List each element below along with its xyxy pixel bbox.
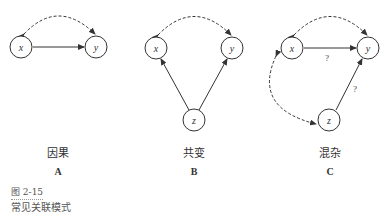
question-mark-xy: ? [325, 53, 329, 63]
node-x: x [145, 37, 167, 59]
figure-caption: 常见关联模式 [11, 199, 71, 214]
panel-c: ? ? x y z [269, 17, 379, 132]
dashed-bidirectional-arc [158, 17, 231, 36]
question-mark-zy: ? [353, 84, 357, 94]
svg-text:y: y [229, 43, 235, 54]
dashed-bidirectional-arc-xy [294, 17, 367, 36]
panel-a-letter: A [54, 166, 61, 177]
svg-text:y: y [93, 42, 99, 53]
svg-text:z: z [191, 115, 196, 126]
node-x: x [281, 37, 303, 59]
node-y: y [221, 37, 243, 59]
dashed-bidirectional-arc [24, 16, 95, 34]
arrow-z-to-x [161, 59, 189, 110]
panel-c-letter: C [326, 166, 333, 177]
figure-number: 图 2-15 [11, 185, 43, 200]
svg-text:z: z [326, 115, 331, 126]
svg-text:y: y [365, 43, 371, 54]
node-y: y [357, 37, 379, 59]
panel-a-title: 因果 [47, 144, 69, 160]
node-y: y [85, 36, 107, 58]
association-patterns-diagram: x y x y z ? ? x [0, 0, 386, 220]
panel-a: x y [10, 16, 107, 58]
panel-b-letter: B [191, 166, 198, 177]
arrow-z-to-y [336, 59, 362, 110]
svg-text:x: x [153, 43, 159, 54]
node-z: z [318, 109, 340, 131]
node-x: x [10, 36, 32, 58]
arrow-z-to-y [199, 59, 227, 110]
node-z: z [183, 109, 205, 131]
dashed-bidirectional-arc-xz [269, 56, 316, 124]
panel-c-title: 混杂 [319, 144, 341, 160]
panel-b: x y z [145, 17, 243, 132]
svg-text:x: x [18, 42, 24, 53]
svg-text:x: x [289, 43, 295, 54]
panel-b-title: 共变 [183, 144, 205, 160]
